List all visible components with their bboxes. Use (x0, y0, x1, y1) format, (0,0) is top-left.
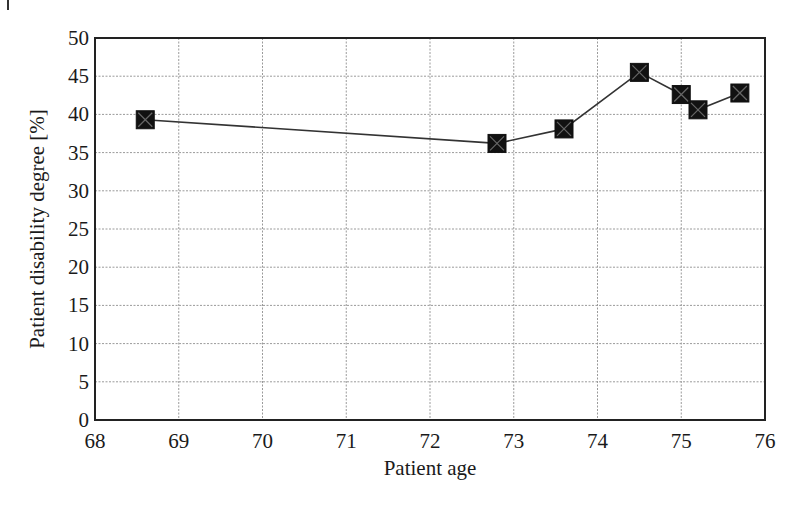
line-chart: 05101520253035404550 686970717273747576 … (0, 0, 802, 505)
y-axis-ticks: 05101520253035404550 (68, 26, 89, 432)
x-tick-label: 70 (252, 429, 273, 453)
x-tick-label: 73 (503, 429, 524, 453)
x-tick-label: 71 (336, 429, 357, 453)
x-tick-label: 75 (671, 429, 692, 453)
data-point-marker (136, 111, 154, 129)
series-line (145, 72, 740, 143)
y-tick-label: 45 (68, 64, 89, 88)
y-tick-label: 35 (68, 141, 89, 165)
y-tick-label: 5 (79, 370, 90, 394)
x-tick-label: 69 (168, 429, 189, 453)
x-axis-title: Patient age (384, 456, 477, 480)
y-tick-label: 40 (68, 102, 89, 126)
x-axis-ticks: 686970717273747576 (85, 429, 776, 453)
data-point-marker (488, 134, 506, 152)
data-point-marker (555, 120, 573, 138)
y-tick-label: 30 (68, 179, 89, 203)
data-point-marker (630, 63, 648, 81)
y-axis-title: Patient disability degree [%] (25, 109, 49, 349)
data-point-marker (672, 86, 690, 104)
y-tick-label: 50 (68, 26, 89, 50)
y-tick-label: 20 (68, 255, 89, 279)
grid (95, 38, 765, 420)
x-tick-label: 76 (755, 429, 776, 453)
y-tick-label: 25 (68, 217, 89, 241)
x-tick-label: 74 (587, 429, 609, 453)
y-tick-label: 10 (68, 332, 89, 356)
y-tick-label: 15 (68, 293, 89, 317)
data-point-marker (731, 84, 749, 102)
chart-canvas: 05101520253035404550 686970717273747576 … (0, 0, 802, 505)
x-tick-label: 68 (85, 429, 106, 453)
data-point-marker (689, 101, 707, 119)
x-tick-label: 72 (420, 429, 441, 453)
